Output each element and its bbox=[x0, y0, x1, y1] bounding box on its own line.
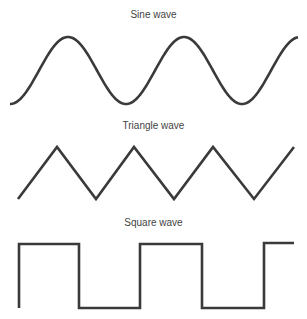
triangle-wave-line bbox=[18, 147, 294, 199]
square-wave-line bbox=[19, 243, 294, 308]
sine-wave-curve bbox=[10, 37, 298, 104]
waveforms-diagram bbox=[0, 0, 307, 319]
